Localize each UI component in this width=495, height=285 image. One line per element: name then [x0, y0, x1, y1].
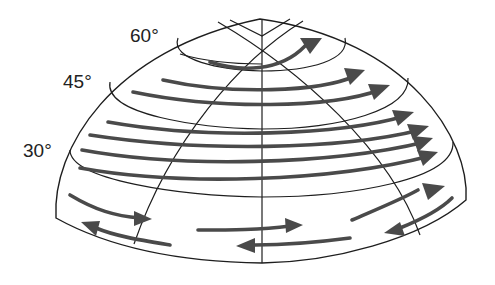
label-60-degrees: 60° [130, 25, 159, 46]
label-45-degrees: 45° [63, 71, 92, 92]
pole-cross [230, 19, 290, 36]
label-30-degrees: 30° [23, 140, 52, 161]
hemisphere-diagram: 60° 45° 30° [0, 0, 495, 285]
westward-flow-arrows [81, 198, 452, 253]
